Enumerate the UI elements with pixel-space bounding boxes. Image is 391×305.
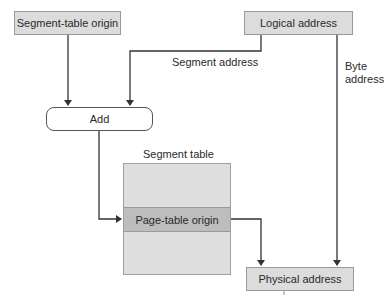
page-table-origin-row: Page-table origin — [124, 207, 230, 232]
byte-address-label: Byte address — [345, 60, 384, 86]
segment-address-label: Segment address — [172, 56, 258, 69]
add-label: Add — [90, 113, 110, 125]
segment-table: Page-table origin — [123, 163, 231, 275]
logical-address-box: Logical address — [244, 11, 353, 35]
segment-table-origin-box: Segment-table origin — [14, 11, 121, 35]
byte-address-line1: Byte — [345, 60, 384, 73]
byte-address-line2: address — [345, 73, 384, 86]
add-box: Add — [46, 107, 153, 131]
segment-table-origin-label: Segment-table origin — [17, 17, 119, 29]
physical-address-label: Physical address — [258, 273, 341, 285]
physical-address-box: Physical address — [246, 267, 354, 291]
segment-table-title: Segment table — [143, 148, 214, 161]
logical-address-label: Logical address — [260, 17, 337, 29]
page-table-origin-label: Page-table origin — [135, 214, 218, 226]
